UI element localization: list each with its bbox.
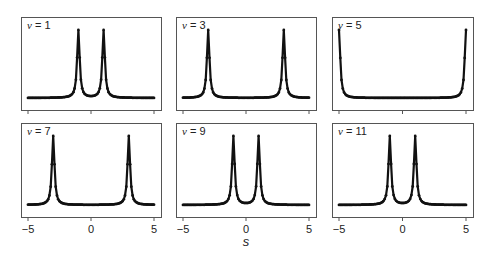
x-axis-label: s [243,234,250,249]
curve [339,136,466,205]
x-tick-label: −5 [333,223,346,235]
x-tick-label: −5 [22,223,35,235]
curve [28,136,154,205]
panel-label: ν = 1 [27,19,51,31]
panel-label: ν = 5 [338,19,362,31]
curve [339,30,466,98]
figure: ν = 1ν = 3ν = 5ν = 7−505ν = 9−505ν = 11−… [0,0,491,256]
curve [28,30,154,98]
panel-nu-7: ν = 7−505 [22,124,162,236]
panel-label: ν = 3 [182,19,206,31]
panel-nu-11: ν = 11−505 [333,124,474,236]
x-tick-label: 5 [151,223,157,235]
panel-label: ν = 9 [182,125,206,137]
panel-label: ν = 7 [27,125,51,137]
panel-nu-1: ν = 1 [22,18,162,115]
x-tick-label: −5 [177,223,190,235]
x-tick-label: 0 [399,223,405,235]
x-tick-label: 0 [88,223,94,235]
x-tick-label: 5 [306,223,312,235]
panel-nu-9: ν = 9−505 [177,124,317,236]
panel-nu-3: ν = 3 [177,18,317,115]
x-tick-label: 5 [463,223,469,235]
curve [183,136,309,205]
curve [183,30,309,98]
panel-nu-5: ν = 5 [333,18,474,115]
panel-label: ν = 11 [338,125,367,137]
